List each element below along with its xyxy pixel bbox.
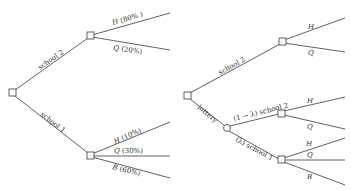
left-tree: school 2 school 1 H (80% ) Q (20%) H (10… [9,10,170,178]
edge-label-lottery: lottery [196,103,219,124]
outcome-label-b: B [306,173,312,181]
edge-label-school2: school 2 [37,48,66,71]
svg-text:H (10%): H (10%) [112,126,143,146]
outcome-label-h: H (10%) [112,126,143,146]
outcome-label-h: H [307,23,315,31]
chance-node-school2 [279,38,286,45]
decision-node-root [184,92,191,99]
edge-b [284,162,345,185]
edge-label-school1: school 1 [39,110,67,134]
outcome-label-q: Q [308,49,314,57]
svg-text:Q (30%): Q (30%) [114,147,143,155]
outcome-label-b: B (60%) [111,163,142,178]
edge-q [284,43,345,52]
edge-h [284,18,345,40]
lottery-node [224,125,231,132]
outcome-label-q: Q [307,123,313,131]
outcome-label-h: H [305,140,313,148]
edge-q [284,115,345,129]
edge-h [284,97,345,111]
chance-node-school2 [87,32,94,39]
svg-text:Q (20%): Q (20%) [113,44,143,56]
outcome-label-h: H [306,97,314,105]
svg-text:B (60%): B (60%) [111,163,142,178]
decision-node-root [9,89,16,96]
outcome-label-q: Q [307,151,313,159]
decision-trees: school 2 school 1 H (80% ) Q (20%) H (10… [0,0,351,191]
chance-node-lottery-school1 [278,156,285,163]
edge-label-school2: school 2 [217,56,247,77]
outcome-label-q: Q (20%) [113,44,143,56]
edge-h [284,138,345,158]
outcome-label-q: Q (30%) [114,147,143,155]
chance-node-school1 [87,152,94,159]
right-tree: school 2 lottery (1 − λ) school 2 (λ) sc… [184,18,345,185]
edge-label-lottery-school1: (λ) school 1 [234,136,274,163]
